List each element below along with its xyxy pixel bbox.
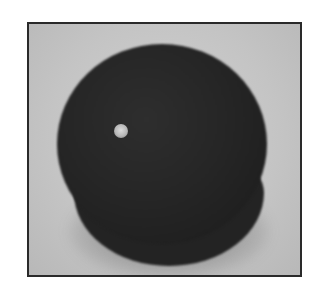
dark-ball	[57, 44, 267, 244]
photo-frame	[27, 22, 302, 277]
ball-hole	[114, 124, 128, 138]
